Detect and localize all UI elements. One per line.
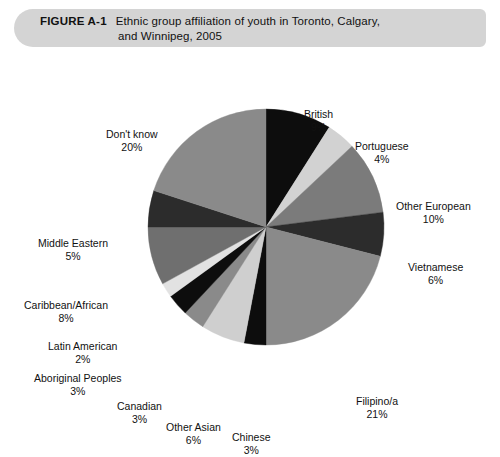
pie-label-vietnamese-name: Vietnamese	[408, 261, 463, 274]
pie-label-portuguese-name: Portuguese	[355, 140, 409, 153]
pie-label-canadian-value: 3%	[117, 413, 162, 426]
pie-label-portuguese: Portuguese 4%	[355, 140, 409, 166]
pie-label-middle-eastern-name: Middle Eastern	[38, 237, 108, 250]
pie-label-chinese-value: 3%	[232, 444, 271, 457]
pie-label-caribbean-african-value: 8%	[24, 312, 108, 325]
pie-label-vietnamese: Vietnamese 6%	[408, 261, 463, 287]
pie-label-british: British 9%	[304, 108, 333, 134]
pie-label-middle-eastern-value: 5%	[38, 250, 108, 263]
pie-chart: British 9% Portuguese 4% Other European …	[0, 48, 500, 435]
pie-label-other-asian-value: 6%	[166, 434, 221, 447]
figure-caption-line-1: Ethnic group affiliation of youth in Tor…	[116, 15, 380, 27]
figure-header: FIGURE A-1Ethnic group affiliation of yo…	[14, 9, 486, 47]
pie-label-dont-know-name: Don't know	[106, 128, 158, 141]
pie-label-other-european: Other European 10%	[396, 200, 471, 226]
pie-label-other-asian-name: Other Asian	[166, 421, 221, 434]
pie-slice-group	[148, 109, 384, 345]
pie-label-latin-american-name: Latin American	[48, 340, 117, 353]
pie-label-british-value: 9%	[304, 121, 333, 134]
pie-label-caribbean-african: Caribbean/African 8%	[24, 299, 108, 325]
pie-label-caribbean-african-name: Caribbean/African	[24, 299, 108, 312]
pie-label-vietnamese-value: 6%	[408, 274, 463, 287]
pie-label-filipino-value: 21%	[356, 408, 398, 421]
pie-label-canadian-name: Canadian	[117, 400, 162, 413]
pie-label-aboriginal-peoples-name: Aboriginal Peoples	[34, 372, 122, 385]
figure-caption-line-2: and Winnipeg, 2005	[118, 29, 486, 44]
pie-label-aboriginal-peoples-value: 3%	[34, 385, 122, 398]
pie-label-dont-know: Don't know 20%	[106, 128, 158, 154]
pie-label-middle-eastern: Middle Eastern 5%	[38, 237, 108, 263]
pie-label-other-european-name: Other European	[396, 200, 471, 213]
pie-label-dont-know-value: 20%	[106, 141, 158, 154]
pie-label-aboriginal-peoples: Aboriginal Peoples 3%	[34, 372, 122, 398]
pie-label-other-asian: Other Asian 6%	[166, 421, 221, 447]
figure-number-label: FIGURE A-1	[40, 15, 107, 27]
pie-label-chinese-name: Chinese	[232, 431, 271, 444]
pie-label-other-european-value: 10%	[396, 213, 471, 226]
pie-label-latin-american: Latin American 2%	[48, 340, 117, 366]
pie-label-filipino: Filipino/a 21%	[356, 395, 398, 421]
pie-label-chinese: Chinese 3%	[232, 431, 271, 457]
pie-label-filipino-name: Filipino/a	[356, 395, 398, 408]
pie-label-latin-american-value: 2%	[48, 353, 117, 366]
figure-header-line-1: FIGURE A-1Ethnic group affiliation of yo…	[40, 14, 486, 29]
pie-label-british-name: British	[304, 108, 333, 121]
pie-label-canadian: Canadian 3%	[117, 400, 162, 426]
pie-label-portuguese-value: 4%	[355, 153, 409, 166]
